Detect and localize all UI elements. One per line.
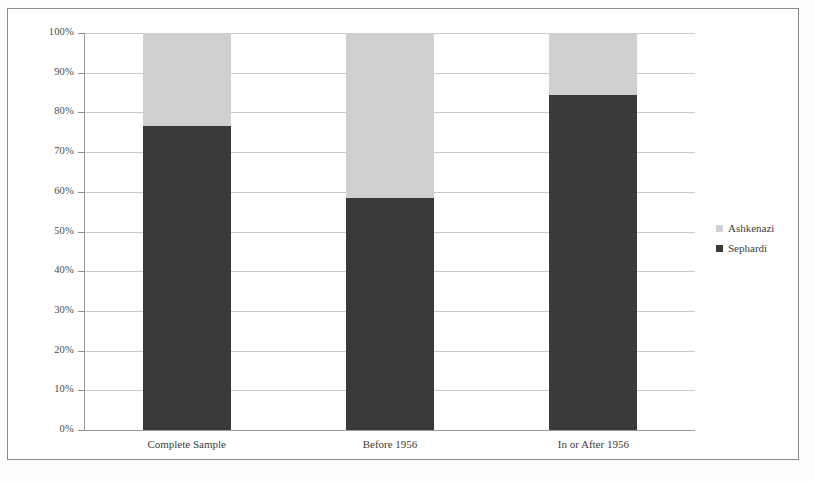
y-axis-tick-mark xyxy=(78,271,85,272)
y-axis-tick-label: 70% xyxy=(14,145,74,156)
legend-swatch-icon xyxy=(716,225,723,232)
y-axis-tick-label: 10% xyxy=(14,383,74,394)
y-axis-tick-mark xyxy=(78,430,85,431)
y-axis-tick-mark xyxy=(78,232,85,233)
y-axis-tick-label: 80% xyxy=(14,105,74,116)
legend-label: Ashkenazi xyxy=(728,222,774,234)
x-axis-labels: Complete SampleBefore 1956In or After 19… xyxy=(85,438,695,460)
legend-item[interactable]: Ashkenazi xyxy=(716,218,796,238)
legend-label: Sephardi xyxy=(728,242,767,254)
gridline xyxy=(85,430,695,431)
bar-group[interactable] xyxy=(549,33,637,430)
y-axis-labels: 0%10%20%30%40%50%60%70%80%90%100% xyxy=(10,0,74,481)
y-axis-tick-mark xyxy=(78,33,85,34)
y-axis-tick-label: 20% xyxy=(14,344,74,355)
x-axis-tick-label: Before 1956 xyxy=(310,438,470,450)
bar-segment-ashkenazi[interactable] xyxy=(143,33,231,126)
y-axis-tick-mark xyxy=(78,390,85,391)
bar-segment-sephardi[interactable] xyxy=(549,95,637,430)
legend-swatch-icon xyxy=(716,245,723,252)
y-axis-tick-label: 60% xyxy=(14,185,74,196)
y-axis-tick-label: 90% xyxy=(14,66,74,77)
y-axis-tick-mark xyxy=(78,73,85,74)
plot-area xyxy=(85,33,695,430)
chart-figure: 0%10%20%30%40%50%60%70%80%90%100% Comple… xyxy=(0,0,815,481)
bar-segment-sephardi[interactable] xyxy=(143,126,231,430)
chart-legend: AshkenaziSephardi xyxy=(716,218,796,258)
y-axis-tick-mark xyxy=(78,112,85,113)
bar-segment-ashkenazi[interactable] xyxy=(549,33,637,95)
y-axis-tick-mark xyxy=(78,152,85,153)
bar-segment-ashkenazi[interactable] xyxy=(346,33,434,198)
y-axis-tick-mark xyxy=(78,311,85,312)
y-axis-tick-label: 50% xyxy=(14,225,74,236)
y-axis-tick-label: 30% xyxy=(14,304,74,315)
bar-group[interactable] xyxy=(143,33,231,430)
y-axis-tick-mark xyxy=(78,192,85,193)
bar-group[interactable] xyxy=(346,33,434,430)
y-axis-tick-mark xyxy=(78,351,85,352)
legend-item[interactable]: Sephardi xyxy=(716,238,796,258)
y-axis-tick-label: 40% xyxy=(14,264,74,275)
y-axis-tick-label: 100% xyxy=(14,26,74,37)
y-axis-tick-label: 0% xyxy=(14,423,74,434)
x-axis-tick-label: In or After 1956 xyxy=(513,438,673,450)
bar-segment-sephardi[interactable] xyxy=(346,198,434,430)
x-axis-tick-label: Complete Sample xyxy=(107,438,267,450)
